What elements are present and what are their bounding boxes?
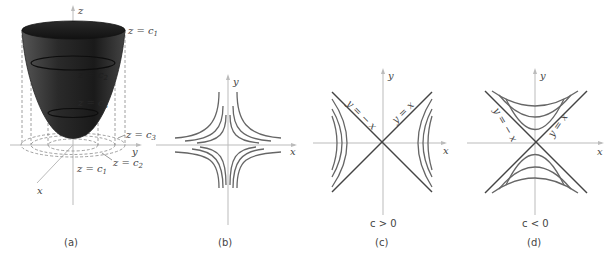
panel-d: x y y = − x y = x c < 0 (d) [467, 68, 604, 248]
panel-b: x y (b) [156, 74, 297, 248]
caption-d: (d) [527, 237, 541, 248]
label-ring-c3: z = c3 [125, 129, 157, 142]
y-axis-label: y [232, 76, 239, 87]
label-ring-c1: z = c1 [76, 163, 107, 176]
figure: z y x z = c1 z = c2 z = c3 z = c3 [0, 0, 610, 263]
label-y-x: y = x [545, 111, 570, 140]
panel-c: x y y = − x y = x c > 0 (c) [313, 68, 449, 248]
label-z-c1-top: z = c1 [127, 25, 158, 38]
condition-c: c < 0 [522, 218, 549, 229]
caption-b: (b) [218, 237, 232, 248]
panel-a: z y x z = c1 z = c2 z = c3 z = c3 [10, 5, 158, 248]
z-axis-arrow-icon [71, 5, 75, 11]
y-axis-label: y [387, 70, 394, 81]
paraboloid-surface [22, 30, 125, 139]
x-axis-label: x [443, 145, 449, 156]
label-y-neg-x: y = − x [344, 97, 379, 132]
condition-c: c > 0 [370, 218, 397, 229]
x-axis-label: x [597, 146, 603, 157]
y-axis-label: y [539, 70, 546, 81]
y-axis-label: y [131, 146, 138, 157]
label-ring-c2: z = c2 [112, 157, 144, 170]
paraboloid-rim [22, 21, 125, 39]
x-axis-label: x [37, 185, 43, 196]
caption-a: (a) [64, 237, 78, 248]
caption-c: (c) [375, 237, 388, 248]
x-axis-label: x [290, 146, 296, 157]
z-axis-label: z [77, 5, 84, 16]
